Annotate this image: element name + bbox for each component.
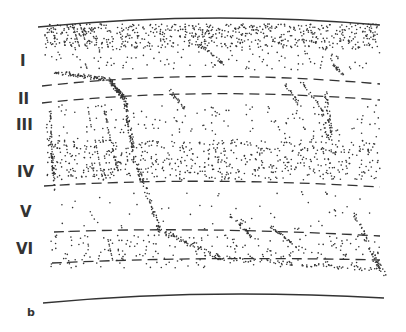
layer-label-vi: VI — [16, 240, 33, 258]
layer-label-iv: IV — [17, 163, 34, 181]
boundary-V-VI — [54, 230, 380, 236]
boundary-II-III — [42, 94, 380, 103]
pial-surface-line — [38, 18, 380, 27]
layer-boundaries — [42, 76, 380, 263]
boundary-VI-bottom — [52, 259, 380, 263]
neuron-dots — [44, 23, 386, 276]
layer-label-v: V — [20, 203, 32, 221]
cortex-layer-diagram — [0, 0, 406, 332]
layer-label-i: I — [20, 52, 26, 70]
layer-label-iii: III — [16, 116, 33, 134]
boundary-IV-V — [44, 181, 380, 187]
boundary-I-II — [42, 76, 380, 86]
panel-label: b — [27, 306, 35, 319]
layer-label-ii: II — [18, 90, 29, 108]
white-matter-line — [43, 294, 384, 303]
